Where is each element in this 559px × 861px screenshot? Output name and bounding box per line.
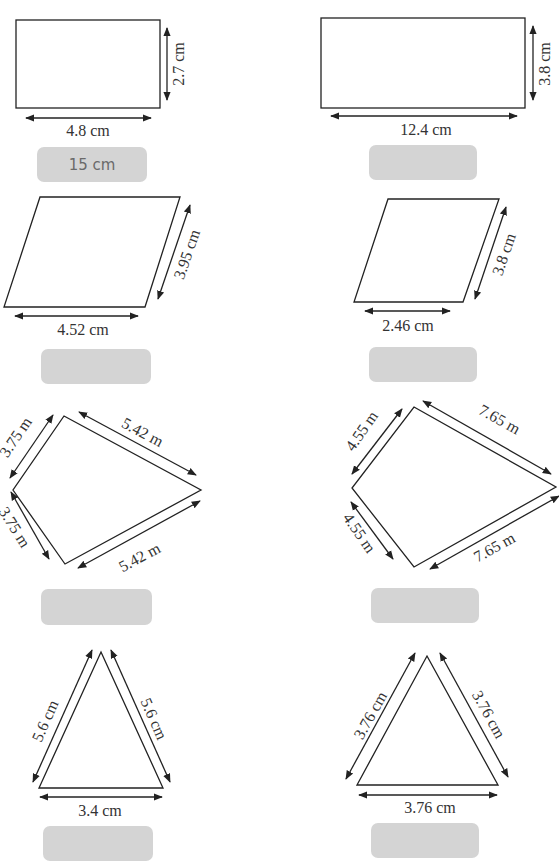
rectangle-2: 3.8 cm 12.4 cm — [321, 18, 553, 138]
answer-box-2[interactable] — [369, 145, 477, 180]
right-side-label: 3.76 cm — [469, 688, 509, 742]
answer-box-6[interactable] — [371, 588, 479, 623]
answer-box-3[interactable] — [41, 349, 151, 384]
base-label: 3.4 cm — [78, 802, 122, 819]
triangle-1-outline — [39, 652, 163, 788]
top-left-label: 4.55 m — [342, 407, 382, 454]
kite-2-outline — [352, 407, 556, 567]
bottom-right-label: 7.65 m — [471, 529, 519, 566]
height-label: 2.7 cm — [170, 42, 187, 86]
rectangle-2-outline — [321, 18, 525, 108]
top-left-label: 3.75 m — [0, 413, 35, 460]
base-label: 2.46 cm — [382, 317, 434, 334]
answer-box-7[interactable] — [43, 826, 153, 861]
parallelogram-2-outline — [354, 199, 499, 302]
kite-1-outline — [13, 416, 201, 564]
base-label: 4.52 cm — [57, 321, 109, 338]
height-label: 3.8 cm — [536, 42, 553, 86]
answer-box-8[interactable] — [371, 823, 479, 858]
parallelogram-2: 3.8 cm 2.46 cm — [354, 199, 519, 334]
rectangle-1-outline — [16, 20, 160, 108]
side-label: 3.8 cm — [489, 230, 519, 277]
base-label: 3.76 cm — [404, 799, 456, 816]
answer-box-1[interactable]: 15 cm — [37, 147, 147, 182]
bottom-right-label: 5.42 m — [116, 539, 164, 575]
side-label: 3.95 cm — [170, 227, 203, 282]
answer-box-4[interactable] — [369, 347, 477, 382]
parallelogram-1-outline — [4, 197, 180, 307]
top-right-label: 7.65 m — [476, 401, 524, 438]
width-label: 12.4 cm — [400, 121, 452, 138]
top-right-label: 5.42 m — [119, 414, 167, 450]
triangle-1: 5.6 cm 5.6 cm 3.4 cm — [28, 650, 171, 819]
parallelogram-1: 3.95 cm 4.52 cm — [4, 197, 203, 338]
width-label: 4.8 cm — [66, 122, 110, 139]
kite-2: 4.55 m 7.65 m 4.55 m 7.65 m — [340, 401, 559, 569]
answer-box-5[interactable] — [41, 589, 152, 625]
triangle-2: 3.76 cm 3.76 cm 3.76 cm — [346, 653, 509, 816]
kite-1: 3.75 m 5.42 m 3.75 m 5.42 m — [0, 412, 201, 575]
rectangle-1: 2.7 cm 4.8 cm — [16, 20, 187, 139]
left-side-label: 5.6 cm — [28, 697, 61, 744]
